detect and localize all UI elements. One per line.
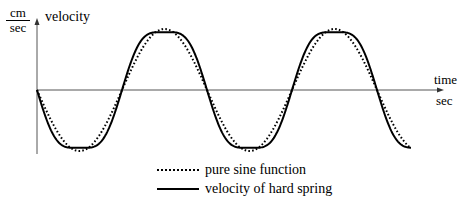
- solid-line-icon: [157, 188, 199, 190]
- y-axis-unit: cm sec: [6, 7, 30, 34]
- x-axis-unit: sec: [436, 94, 453, 108]
- x-axis-arrow-icon: [437, 88, 444, 93]
- x-axis-label: time: [434, 73, 457, 87]
- legend-item-pure-sine: pure sine function: [157, 160, 332, 179]
- y-axis-arrow-icon: [35, 18, 40, 25]
- legend: pure sine function velocity of hard spri…: [157, 160, 332, 198]
- legend-item-hard-spring: velocity of hard spring: [157, 179, 332, 198]
- legend-label: pure sine function: [205, 162, 306, 178]
- y-axis-label: velocity: [45, 10, 90, 24]
- y-unit-denominator: sec: [6, 21, 30, 34]
- legend-label: velocity of hard spring: [205, 181, 332, 197]
- dotted-line-icon: [157, 169, 199, 171]
- y-unit-numerator: cm: [6, 7, 30, 21]
